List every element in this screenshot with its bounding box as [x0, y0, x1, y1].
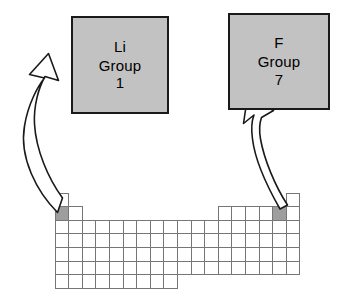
table-cell	[55, 220, 69, 234]
table-cell	[177, 220, 191, 234]
li-group-number: 1	[116, 74, 125, 92]
table-cell	[123, 247, 137, 261]
table-cell	[286, 207, 300, 221]
table-cell	[191, 220, 205, 234]
f-symbol-label: F	[274, 34, 283, 53]
table-cell	[82, 275, 96, 289]
table-cell	[191, 247, 205, 261]
table-cell	[150, 234, 164, 248]
table-cell	[245, 234, 259, 248]
diagram-canvas: Li Group 1 F Group 7	[0, 0, 343, 304]
f-group-number: 7	[275, 71, 284, 89]
table-cell	[69, 207, 83, 221]
table-cell	[55, 247, 69, 261]
table-cell	[232, 247, 246, 261]
table-cell	[123, 261, 137, 275]
table-cell	[96, 275, 110, 289]
table-cell	[286, 261, 300, 275]
table-cell	[191, 234, 205, 248]
table-cell	[55, 275, 69, 289]
table-cell	[69, 275, 83, 289]
table-cell	[82, 220, 96, 234]
table-cell	[259, 261, 273, 275]
table-cell	[109, 247, 123, 261]
table-cell	[259, 234, 273, 248]
table-cell	[232, 261, 246, 275]
table-cell	[150, 261, 164, 275]
table-cell	[150, 247, 164, 261]
table-cell	[286, 247, 300, 261]
table-cell	[109, 275, 123, 289]
li-arrow-shape	[23, 54, 62, 213]
table-cell	[245, 220, 259, 234]
table-cell	[109, 261, 123, 275]
table-cell	[137, 247, 151, 261]
table-cell	[191, 261, 205, 275]
table-cell	[259, 220, 273, 234]
table-cell	[109, 234, 123, 248]
table-cell	[82, 247, 96, 261]
table-cell	[245, 207, 259, 221]
table-cell	[164, 261, 178, 275]
li-group-label: Group	[99, 57, 142, 75]
table-cell	[137, 220, 151, 234]
table-cell	[164, 234, 178, 248]
table-cell	[259, 247, 273, 261]
table-cell	[286, 193, 300, 207]
table-cell	[273, 261, 287, 275]
f-arrow	[244, 97, 288, 210]
table-cell	[69, 234, 83, 248]
table-cell	[177, 261, 191, 275]
table-cell	[218, 261, 232, 275]
table-cell	[245, 247, 259, 261]
f-callout-box[interactable]: F Group 7	[228, 13, 330, 110]
table-cell	[205, 261, 219, 275]
table-cell	[109, 220, 123, 234]
table-cell	[96, 247, 110, 261]
li-symbol-label: Li	[114, 38, 126, 57]
table-cell	[218, 247, 232, 261]
table-cell	[273, 234, 287, 248]
table-cell	[82, 234, 96, 248]
table-cell	[205, 247, 219, 261]
table-cell	[150, 220, 164, 234]
table-cell	[218, 220, 232, 234]
table-cell	[96, 234, 110, 248]
table-cell	[218, 234, 232, 248]
table-cell	[286, 234, 300, 248]
table-cell	[96, 220, 110, 234]
li-arrow	[23, 54, 62, 213]
table-cell	[164, 220, 178, 234]
table-cell	[273, 247, 287, 261]
table-cell	[177, 247, 191, 261]
table-cell	[164, 275, 178, 289]
table-cell	[137, 234, 151, 248]
f-group-label: Group	[258, 53, 301, 71]
table-cell	[55, 234, 69, 248]
table-cell	[232, 207, 246, 221]
table-cell	[177, 234, 191, 248]
table-cell	[286, 220, 300, 234]
table-cell	[137, 275, 151, 289]
table-cell	[205, 220, 219, 234]
table-cell	[123, 234, 137, 248]
table-cell	[164, 247, 178, 261]
table-cell	[232, 220, 246, 234]
table-cell	[273, 220, 287, 234]
table-cell	[137, 261, 151, 275]
table-cell	[245, 261, 259, 275]
table-cell	[259, 207, 273, 221]
table-cell	[232, 234, 246, 248]
table-cell	[82, 261, 96, 275]
table-cell	[123, 220, 137, 234]
table-cell	[69, 261, 83, 275]
table-cell	[150, 275, 164, 289]
table-cell	[218, 207, 232, 221]
table-cell	[123, 275, 137, 289]
table-cell	[205, 234, 219, 248]
f-arrow-shape	[244, 97, 288, 210]
table-cell	[69, 220, 83, 234]
table-cell	[55, 261, 69, 275]
li-callout-box[interactable]: Li Group 1	[71, 16, 169, 114]
table-cell	[96, 261, 110, 275]
